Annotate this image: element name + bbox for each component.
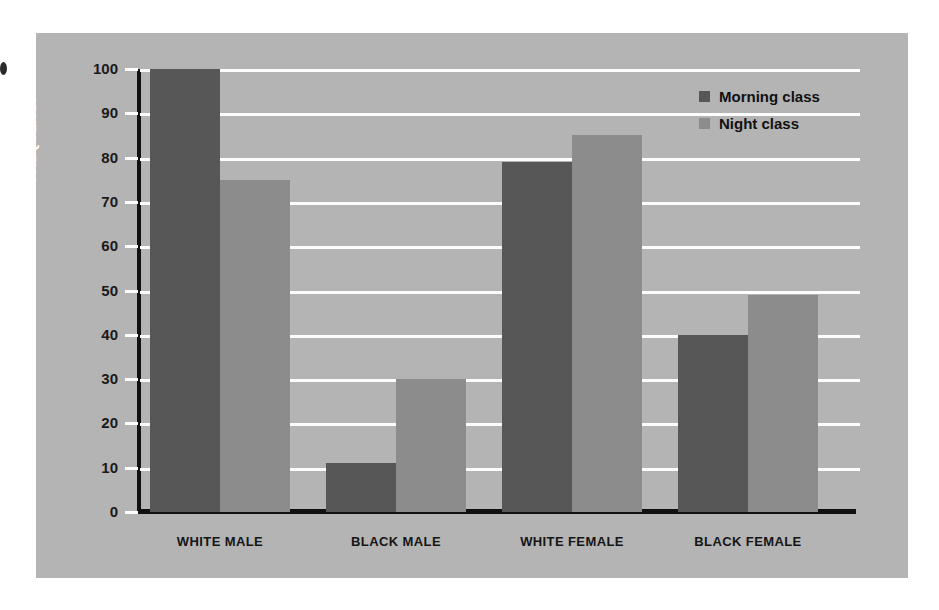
bar: [748, 295, 818, 512]
y-axis-tick: [125, 511, 138, 514]
y-axis-title: FREQUENCY: [24, 83, 39, 193]
legend: Morning classNight class: [699, 83, 820, 137]
y-axis-tick-label: 100: [72, 61, 118, 76]
page-edge-ink-mark: [0, 62, 7, 75]
y-axis-tick: [125, 422, 138, 425]
bar: [572, 135, 642, 512]
y-axis-tick: [125, 112, 138, 115]
y-axis-tick-label: 30: [72, 371, 118, 386]
y-axis-tick-label: 0: [72, 504, 118, 519]
bar: [396, 379, 466, 512]
x-axis-category-label: BLACK FEMALE: [658, 534, 838, 549]
y-axis-tick: [125, 245, 138, 248]
y-axis-tick-label: 20: [72, 415, 118, 430]
legend-item: Night class: [699, 110, 820, 137]
y-axis-tick: [125, 467, 138, 470]
y-axis-tick-label: 60: [72, 238, 118, 253]
y-axis-tick-label: 90: [72, 105, 118, 120]
gridline: [140, 158, 860, 161]
y-axis-tick: [125, 157, 138, 160]
y-axis-tick-label: 70: [72, 194, 118, 209]
bar: [678, 335, 748, 512]
y-axis-tick: [125, 68, 138, 71]
bar: [326, 463, 396, 512]
y-axis-tick: [125, 290, 138, 293]
legend-label: Night class: [719, 115, 799, 132]
legend-label: Morning class: [719, 88, 820, 105]
y-axis-tick: [125, 378, 138, 381]
y-axis-tick-label: 40: [72, 327, 118, 342]
legend-swatch-icon: [699, 91, 710, 102]
gridline: [140, 69, 860, 72]
y-axis-tick-label: 50: [72, 283, 118, 298]
legend-swatch-icon: [699, 118, 710, 129]
x-axis-category-label: WHITE MALE: [130, 534, 310, 549]
x-axis-category-label: BLACK MALE: [306, 534, 486, 549]
bar: [502, 162, 572, 512]
y-axis-tick: [125, 201, 138, 204]
bar: [220, 180, 290, 512]
y-axis-tick-label: 10: [72, 460, 118, 475]
x-axis-category-label: WHITE FEMALE: [482, 534, 662, 549]
legend-item: Morning class: [699, 83, 820, 110]
y-axis-tick-label: 80: [72, 150, 118, 165]
bar: [150, 69, 220, 512]
y-axis-tick: [125, 334, 138, 337]
bar-chart: FREQUENCY 0102030405060708090100 WHITE M…: [36, 33, 908, 578]
